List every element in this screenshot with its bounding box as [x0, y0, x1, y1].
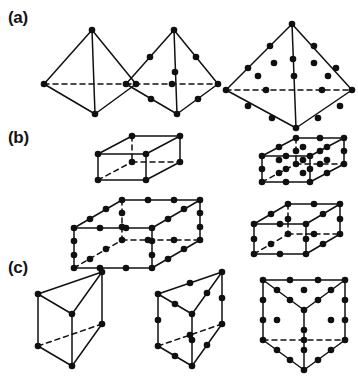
element-hex20 [240, 196, 347, 261]
element-node [303, 251, 310, 258]
element-node [155, 343, 162, 350]
element-node [315, 115, 322, 122]
element-node [342, 317, 349, 324]
element-node [169, 81, 176, 88]
visible-edge [92, 30, 95, 114]
element-node [300, 157, 307, 164]
element-node [223, 87, 230, 94]
element-node [172, 353, 179, 360]
element-node [123, 81, 130, 88]
element-node [337, 103, 344, 110]
element-node [301, 367, 308, 374]
element-node [311, 43, 318, 50]
element-node [274, 347, 281, 354]
element-node [35, 291, 42, 298]
visible-edge [74, 200, 122, 228]
element-node [119, 237, 126, 244]
element-node [324, 157, 331, 164]
element-node [195, 96, 202, 103]
element-node [119, 210, 126, 217]
element-node [283, 166, 290, 173]
element-node [276, 157, 283, 164]
element-node [149, 252, 156, 259]
element-node [171, 237, 178, 244]
element-node [315, 297, 322, 304]
element-node [289, 21, 296, 28]
element-node [319, 87, 326, 94]
element-node [301, 337, 308, 344]
element-node [320, 211, 327, 218]
element-node [143, 151, 150, 158]
element-node [267, 43, 274, 50]
hidden-edge [98, 162, 132, 180]
element-node [337, 216, 344, 223]
visible-edge [304, 280, 345, 310]
element-node [276, 144, 283, 151]
visible-edge [146, 136, 180, 154]
visible-edge [263, 340, 304, 370]
element-node [293, 161, 300, 168]
element-node [268, 211, 275, 218]
element-node [155, 317, 162, 324]
element-node [103, 206, 110, 213]
element-node [245, 103, 252, 110]
visible-edge [304, 340, 345, 370]
element-node [260, 277, 267, 284]
element-node [303, 221, 310, 228]
element-node [263, 87, 270, 94]
element-node [315, 277, 322, 284]
element-node [145, 237, 152, 244]
element-node [189, 311, 196, 318]
element-node [324, 144, 331, 151]
element-node [287, 277, 294, 284]
element-node [99, 321, 106, 328]
visible-edge [72, 324, 102, 366]
element-node [301, 307, 308, 314]
element-node [145, 197, 152, 204]
element-node [287, 357, 294, 364]
element-tet10 [120, 18, 225, 121]
element-node [172, 301, 179, 308]
element-node [283, 179, 290, 186]
visible-edge [226, 90, 296, 128]
element-node [189, 363, 196, 370]
element-node [129, 159, 136, 166]
visible-edge [38, 272, 102, 294]
element-node [71, 238, 78, 245]
element-node [317, 161, 324, 168]
row-label-c: (c) [8, 258, 28, 278]
element-node [324, 170, 331, 177]
visible-edge [292, 24, 352, 90]
element-node [197, 210, 204, 217]
element-node [285, 231, 292, 238]
visible-edge [72, 272, 102, 314]
element-node [92, 111, 99, 118]
element-node [204, 290, 211, 297]
element-node [287, 297, 294, 304]
element-node [291, 73, 298, 80]
element-node [259, 153, 266, 160]
element-node [311, 231, 318, 238]
element-node [285, 216, 292, 223]
element-node [143, 177, 150, 184]
element-node [71, 252, 78, 259]
element-node [219, 269, 226, 276]
finite-element-types-figure: (a) (b) (c) [0, 0, 358, 388]
element-node [333, 65, 340, 72]
element-hex8 [80, 132, 187, 187]
element-node [342, 337, 349, 344]
element-node [311, 201, 318, 208]
element-node [171, 27, 178, 34]
row-label-b: (b) [8, 128, 29, 148]
element-node [187, 332, 194, 339]
row-label-a: (a) [8, 8, 28, 28]
element-node [89, 27, 96, 34]
element-node [172, 69, 179, 76]
element-node [307, 166, 314, 173]
element-node [197, 224, 204, 231]
element-node [148, 96, 155, 103]
element-node [204, 342, 211, 349]
element-node [315, 357, 322, 364]
element-node [155, 291, 162, 298]
element-node [260, 337, 267, 344]
